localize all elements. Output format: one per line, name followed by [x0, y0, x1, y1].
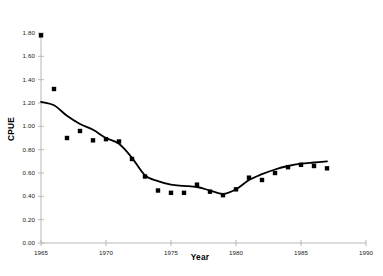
axes-group	[38, 33, 366, 246]
y-axis-tick-label: 1.60	[3, 52, 35, 59]
y-axis-tick-label: 0.00	[3, 239, 35, 246]
x-axis-tick-label: 1970	[91, 249, 121, 256]
smoothed-trend-line	[41, 102, 327, 194]
data-point-marker	[143, 174, 147, 178]
data-point-marker	[312, 164, 316, 168]
chart-plot-area	[0, 0, 383, 276]
data-point-marker	[325, 166, 329, 170]
data-point-marker	[273, 171, 277, 175]
y-axis-title: CPUE	[6, 109, 16, 149]
x-axis-title: Year	[170, 252, 230, 262]
y-axis-tick-label: 1.20	[3, 99, 35, 106]
y-axis-tick-label: 0.60	[3, 169, 35, 176]
data-point-marker	[234, 187, 238, 191]
data-point-marker	[156, 188, 160, 192]
data-point-marker	[195, 182, 199, 186]
data-point-marker	[299, 163, 303, 167]
data-point-marker	[130, 157, 134, 161]
data-point-marker	[247, 175, 251, 179]
data-point-marker	[208, 189, 212, 193]
data-point-marker	[260, 178, 264, 182]
y-axis-tick-label: 0.40	[3, 192, 35, 199]
data-point-marker	[39, 33, 43, 37]
y-axis-tick-label: 1.40	[3, 76, 35, 83]
x-axis-tick-label: 1990	[351, 249, 381, 256]
data-point-marker	[104, 137, 108, 141]
data-point-marker	[117, 139, 121, 143]
data-point-marker	[52, 87, 56, 91]
x-axis-tick-label: 1985	[286, 249, 316, 256]
data-point-marker	[65, 136, 69, 140]
data-point-marker	[169, 191, 173, 195]
data-point-marker	[78, 129, 82, 133]
y-axis-tick-label: 1.80	[3, 29, 35, 36]
data-point-marker	[91, 138, 95, 142]
data-point-marker	[286, 165, 290, 169]
data-point-markers	[39, 33, 329, 197]
data-point-marker	[221, 193, 225, 197]
x-axis-tick-label: 1965	[26, 249, 56, 256]
data-point-marker	[182, 191, 186, 195]
cpue-year-chart: 0.000.200.400.600.801.001.201.401.601.80…	[0, 0, 383, 276]
y-axis-tick-label: 0.20	[3, 216, 35, 223]
